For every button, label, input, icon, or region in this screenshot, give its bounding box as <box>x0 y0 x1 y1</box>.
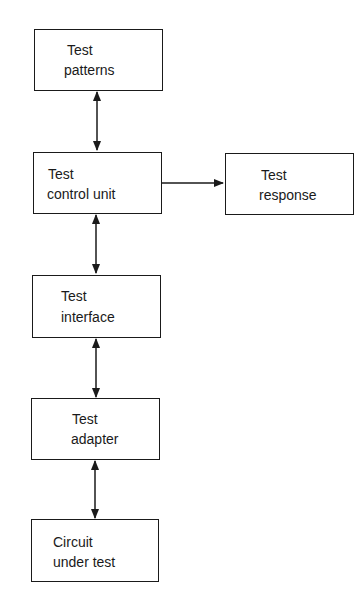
block-label-line2: interface <box>61 307 115 327</box>
block-label-line2: control unit <box>47 184 115 204</box>
block-label-line2: response <box>259 185 317 205</box>
block-label-line1: Test <box>48 164 74 184</box>
block-label-line1: Test <box>61 286 87 306</box>
block-test-control-unit: Test control unit <box>33 152 162 214</box>
block-label-line2: patterns <box>64 60 115 80</box>
block-test-patterns: Test patterns <box>34 29 163 91</box>
block-test-interface: Test interface <box>32 275 161 338</box>
block-label-line1: Test <box>261 165 287 185</box>
block-test-adapter: Test adapter <box>31 398 160 460</box>
block-label-line1: Test <box>67 40 93 60</box>
block-test-response: Test response <box>225 153 354 215</box>
block-label-line1: Circuit <box>53 532 93 552</box>
block-label-line2: under test <box>53 552 115 572</box>
block-circuit-under-test: Circuit under test <box>31 519 159 582</box>
block-label-line2: adapter <box>71 429 118 449</box>
block-label-line1: Test <box>72 409 98 429</box>
